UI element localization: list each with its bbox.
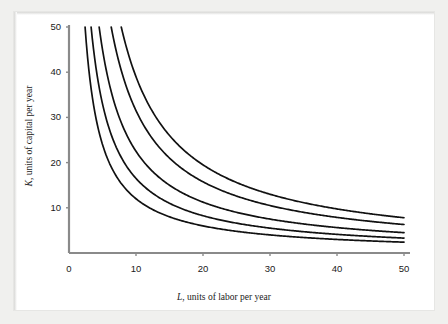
x-tick-label: 0	[60, 263, 78, 274]
x-tick-label: 10	[127, 263, 145, 274]
y-axis-label-symbol: K	[24, 180, 34, 186]
y-tick-label: 30	[41, 111, 61, 122]
x-tick-label: 30	[261, 263, 279, 274]
x-axis-label: L, units of labor per year	[0, 292, 448, 302]
axis-ticks-group	[66, 27, 404, 256]
x-tick-label: 20	[194, 263, 212, 274]
isoquant-5	[121, 27, 404, 218]
y-tick-label: 50	[41, 21, 61, 32]
isoquant-2	[91, 27, 404, 238]
x-axis-label-rest: , units of labor per year	[182, 292, 271, 302]
axes-group	[69, 25, 410, 253]
isoquant-3	[99, 27, 404, 233]
isoquant-1	[85, 27, 404, 242]
x-tick-label: 50	[395, 263, 413, 274]
y-axis-label: K, units of capital per year	[20, 52, 38, 220]
y-tick-label: 20	[41, 157, 61, 168]
figure-root: K, units of capital per year L, units of…	[0, 0, 448, 324]
isoquant-chart	[0, 0, 448, 324]
x-tick-label: 40	[328, 263, 346, 274]
y-tick-label: 40	[41, 66, 61, 77]
isoquant-curves-group	[85, 27, 404, 242]
y-tick-label: 10	[41, 202, 61, 213]
y-axis-label-rest: , units of capital per year	[24, 86, 34, 180]
